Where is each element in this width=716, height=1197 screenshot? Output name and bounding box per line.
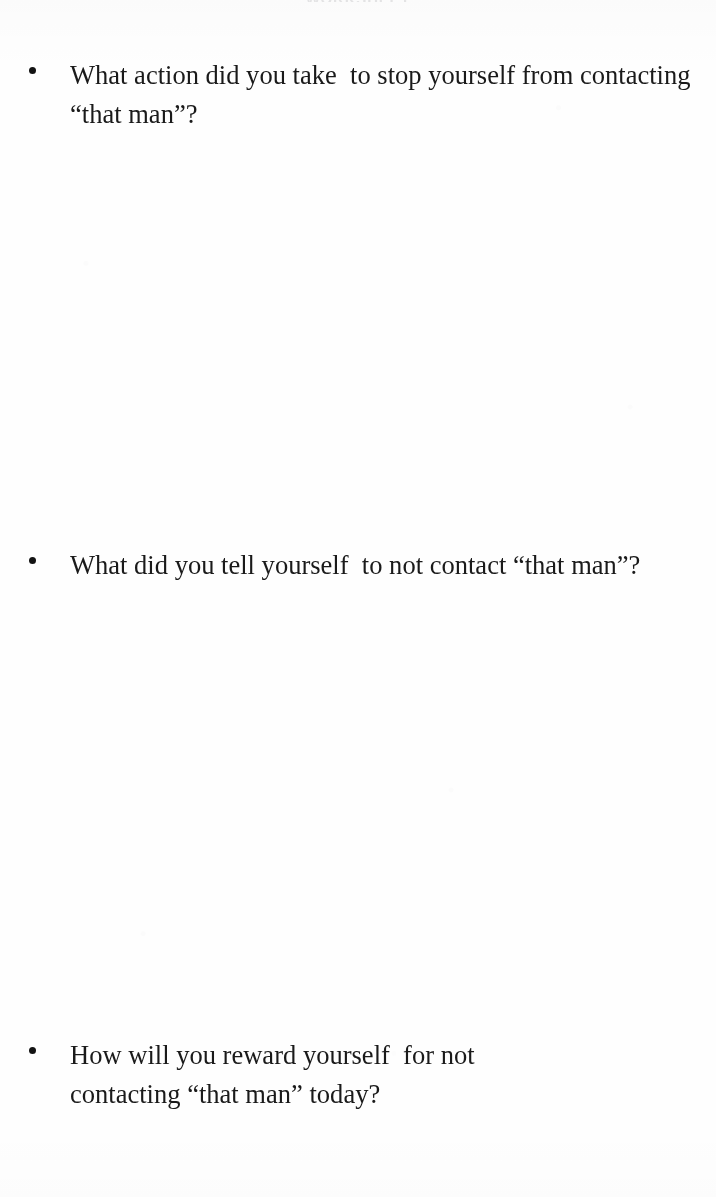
answer-writing-space[interactable] [70, 140, 690, 535]
bullet-point-icon [29, 557, 36, 564]
document-page: WORKSHEET What action did you take to st… [0, 0, 716, 1197]
question-text: What did you tell yourself to not contac… [70, 545, 684, 584]
question-item: How will you reward yourself for not con… [20, 1035, 710, 1113]
bullet-point-icon [29, 67, 36, 74]
bullet-point-icon [29, 1047, 36, 1054]
question-text: How will you reward yourself for not con… [70, 1035, 577, 1113]
question-text: What action did you take to stop yoursel… [70, 55, 699, 133]
answer-writing-space[interactable] [70, 630, 690, 1025]
question-item: What did you tell yourself to not contac… [20, 545, 710, 584]
question-item: What action did you take to stop yoursel… [20, 55, 710, 133]
answer-writing-space[interactable] [70, 1120, 690, 1190]
